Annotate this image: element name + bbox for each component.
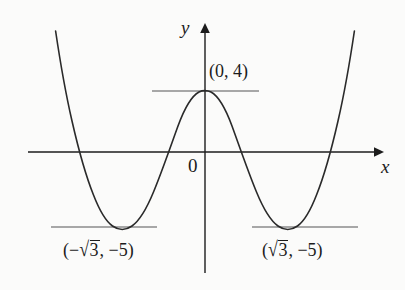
quartic-graph-figure: y x 0 (0, 4) (−√3, −5) (√3, −5) <box>0 0 405 290</box>
radicand-right: 3 <box>278 240 288 259</box>
y-axis-arrowhead <box>200 23 210 33</box>
surd-glyph-left: √ <box>79 239 89 260</box>
local-maximum-label: (0, 4) <box>209 62 248 80</box>
radical-left: √3 <box>79 240 99 259</box>
local-minimum-left-label: (−√3, −5) <box>63 240 134 259</box>
local-minimum-right-label: (√3, −5) <box>262 240 323 259</box>
radicand-left: 3 <box>90 240 100 259</box>
x-axis-label: x <box>381 157 389 176</box>
min-left-suffix: , −5) <box>100 240 134 260</box>
min-right-suffix: , −5) <box>288 240 322 260</box>
surd-glyph-right: √ <box>268 239 278 260</box>
min-left-prefix: (− <box>63 240 79 260</box>
radical-right: √3 <box>268 240 288 259</box>
y-axis-label: y <box>181 18 189 37</box>
origin-label: 0 <box>188 156 198 175</box>
graph-canvas <box>0 0 405 290</box>
